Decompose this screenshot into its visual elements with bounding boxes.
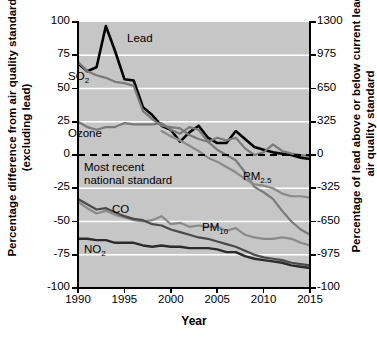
y-tick-label-left: -75 (0, 247, 70, 259)
y-tick-left (72, 221, 77, 223)
series-line-ozone (78, 122, 310, 157)
x-tick-label: 2005 (204, 293, 230, 305)
y-tick-right (311, 287, 316, 289)
y-tick-right (311, 121, 316, 123)
series-label-no2-subscript: 2 (101, 249, 105, 258)
chart-canvas (78, 22, 310, 288)
y-tick-right (311, 254, 316, 256)
y-tick-left (72, 21, 77, 23)
series-label-pm10: PM10 (202, 221, 228, 236)
axis-spine-left (77, 21, 79, 289)
y-tick-right (311, 154, 316, 156)
y-axis-right-title: Percentage of lead above or below curren… (350, 0, 377, 255)
y-tick-label-right: -975 (317, 247, 340, 259)
y-tick-label-left: -50 (0, 214, 70, 226)
y-tick-label-left: 0 (0, 147, 70, 159)
reference-line-note-line2: national standard (84, 174, 172, 187)
y-tick-left (72, 121, 77, 123)
series-line-no2 (78, 239, 310, 268)
y-tick-label-right: 650 (317, 81, 336, 93)
reference-line-note-line1: Most recent (84, 161, 144, 174)
x-axis-title: Year (78, 314, 310, 328)
y-tick-right (311, 221, 316, 223)
y-tick-label-left: -25 (0, 180, 70, 192)
y-tick-label-right: -650 (317, 214, 340, 226)
y-tick-label-right: -325 (317, 180, 340, 192)
plot-area (78, 22, 310, 288)
y-tick-label-right: 0 (317, 147, 323, 159)
y-tick-label-left: 100 (0, 14, 70, 26)
y-tick-label-right: 975 (317, 47, 336, 59)
x-tick-label: 1995 (112, 293, 138, 305)
y-tick-label-right: 325 (317, 114, 336, 126)
series-label-pm25-subscript: 2.5 (260, 176, 271, 185)
x-tick-label: 2015 (297, 293, 323, 305)
series-label-co: CO (112, 203, 129, 215)
series-label-no2: NO2 (84, 243, 106, 258)
series-label-pm25-text: PM (243, 170, 260, 182)
series-label-pm10-text: PM (202, 221, 219, 233)
series-label-lead: Lead (127, 32, 153, 44)
x-tick-label: 1990 (65, 293, 91, 305)
y-tick-left (72, 154, 77, 156)
y-tick-label-left: 75 (0, 47, 70, 59)
y-tick-label-left: 25 (0, 114, 70, 126)
y-tick-left (72, 88, 77, 90)
series-label-pm10-subscript: 10 (219, 227, 228, 236)
series-label-so2: SO2 (68, 70, 89, 85)
y-tick-right (311, 21, 316, 23)
y-tick-right (311, 187, 316, 189)
series-line-lead (78, 26, 310, 159)
y-tick-label-left: -100 (0, 280, 70, 292)
series-label-so2-subscript: 2 (85, 76, 89, 85)
series-label-no2-text: NO (84, 243, 101, 255)
y-tick-label-right: 1300 (317, 14, 343, 26)
axis-spine-bottom (77, 287, 311, 289)
series-label-ozone: Ozone (68, 127, 102, 139)
y-tick-left (72, 187, 77, 189)
x-tick-label: 2010 (251, 293, 277, 305)
x-tick-label: 2000 (158, 293, 184, 305)
y-tick-label-right: -100 (317, 280, 340, 292)
series-label-so2-text: SO (68, 70, 85, 82)
y-tick-left (72, 254, 77, 256)
y-tick-right (311, 54, 316, 56)
y-tick-left (72, 54, 77, 56)
y-tick-label-left: 50 (0, 81, 70, 93)
series-label-pm25: PM2.5 (243, 170, 271, 185)
y-tick-right (311, 88, 316, 90)
